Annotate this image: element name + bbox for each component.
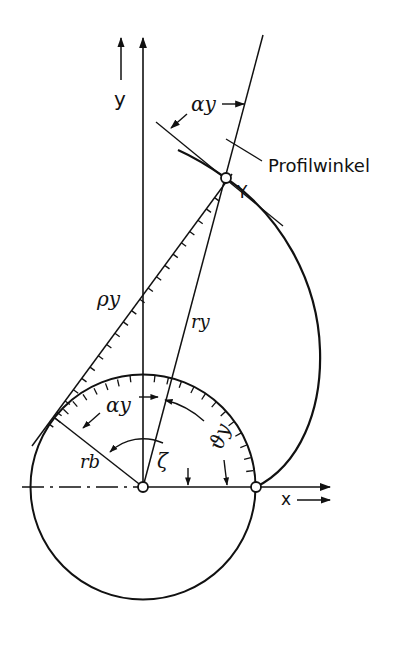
zeta-label: ζ	[157, 449, 169, 473]
r-y-label: ry	[191, 311, 211, 332]
zeta-arc	[110, 439, 163, 452]
rho-y-label: ρy	[96, 287, 121, 311]
profilwinkel-leader	[226, 139, 262, 161]
involute-diagram: x y Profilwinkel Y	[0, 0, 418, 645]
alpha-y-top-arrow-left	[171, 114, 187, 128]
line-of-action-rho-y	[32, 174, 232, 446]
r-b-label: rb	[80, 451, 100, 472]
involute-tangent-line	[156, 122, 283, 226]
alpha-y-inner-label: αy	[106, 393, 132, 417]
alpha-y-rb-arrow	[83, 413, 100, 428]
involute-start-point	[251, 482, 261, 492]
point-y-label: Y	[236, 182, 248, 202]
theta-y-x-arrow	[224, 460, 227, 485]
x-axis-label: x	[281, 489, 291, 509]
y-axis-label: y	[114, 87, 126, 111]
center-point	[138, 482, 148, 492]
point-y	[221, 173, 231, 183]
alpha-y-inner-arc	[165, 400, 204, 421]
profilwinkel-label: Profilwinkel	[268, 155, 370, 176]
alpha-y-top-label: αy	[191, 92, 217, 116]
